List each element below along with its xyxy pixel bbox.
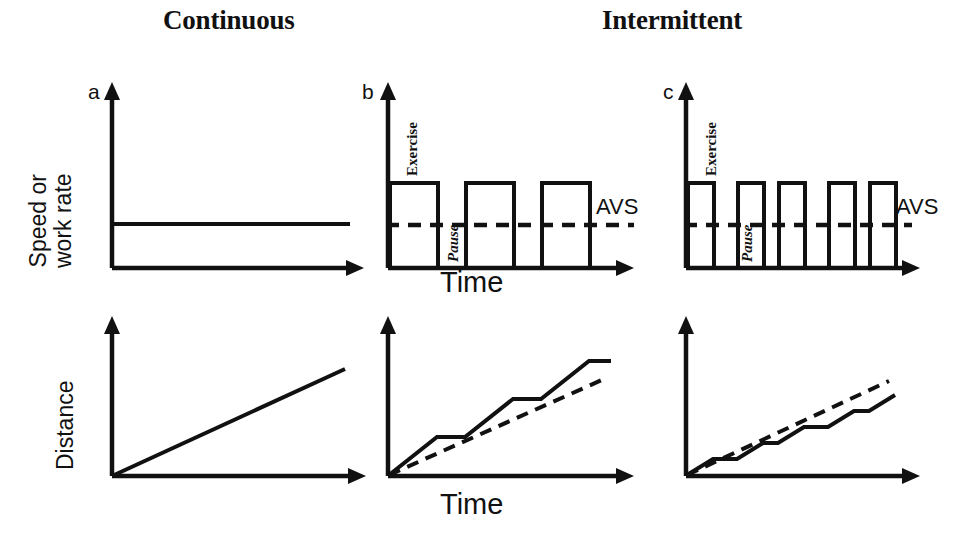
y-axis-label-distance: Distance [52,381,79,470]
series-distance-staircase [389,361,611,475]
column-title-continuous: Continuous [163,5,295,36]
y-axis-arrowhead [104,82,120,100]
x-axis-arrowhead [616,468,634,484]
plot-panel-b-top [376,86,646,281]
y-axis-arrowhead [678,316,694,334]
plot-panel-c-bottom [676,318,946,498]
y-axis-arrowhead [104,316,120,334]
y-axis-label-line-1: Speed or [26,173,51,268]
y-axis-label-speed-or-work-rate: Speed or work rate [26,173,76,268]
panel-letter-a: a [88,80,100,104]
series-distance-staircase [687,395,895,475]
series-distance-continuous [112,369,345,476]
plot-panel-c-top [676,86,946,281]
plot-panel-a-top [100,86,375,281]
x-axis-arrowhead [902,468,920,484]
x-axis-arrowhead [346,260,364,276]
y-axis-label-line-2: work rate [51,173,76,268]
series-average-distance [389,379,604,475]
figure-canvas: Continuous Intermittent a b c Speed or w… [0,0,970,544]
panel-letter-c: c [663,80,674,104]
x-axis-arrowhead [348,468,366,484]
y-axis-arrowhead [380,316,396,334]
x-axis-arrowhead [616,260,634,276]
y-axis-arrowhead [380,82,396,100]
column-title-intermittent: Intermittent [602,5,742,36]
y-axis-arrowhead [678,82,694,100]
plot-panel-a-bottom [100,318,375,498]
plot-panel-b-bottom [376,318,646,498]
x-axis-arrowhead [902,260,920,276]
